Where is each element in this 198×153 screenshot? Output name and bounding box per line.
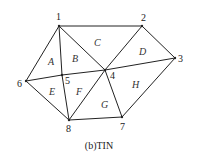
vertex-7	[121, 116, 123, 118]
diagram-caption: (b)TIN	[85, 140, 113, 152]
vertex-label-2: 2	[141, 12, 146, 23]
tin-diagram: 12345678 ABCDEFGH (b)TIN	[0, 0, 198, 153]
edge-4-8	[69, 70, 105, 120]
region-label-b: B	[72, 53, 78, 64]
vertex-label-4: 4	[110, 70, 115, 81]
edge-2-4	[105, 26, 142, 70]
vertex-3	[174, 57, 176, 59]
vertex-5	[61, 74, 63, 76]
edge-1-5	[59, 26, 62, 75]
edge-6-1	[26, 26, 59, 81]
vertex-label-6: 6	[17, 78, 22, 89]
vertex-label-1: 1	[56, 11, 61, 22]
edge-8-6	[26, 81, 69, 120]
vertex-8	[68, 119, 70, 121]
vertex-4	[104, 69, 106, 71]
vertex-labels-group: 12345678	[17, 11, 183, 134]
region-label-h: H	[131, 79, 140, 90]
vertex-label-8: 8	[66, 123, 71, 134]
edge-2-3	[142, 26, 175, 58]
vertex-label-7: 7	[120, 121, 125, 132]
edge-3-4	[105, 58, 175, 70]
region-label-a: A	[47, 56, 55, 67]
vertex-label-3: 3	[178, 53, 183, 64]
vertex-6	[25, 80, 27, 82]
vertex-label-5: 5	[65, 75, 70, 86]
vertex-1	[58, 25, 60, 27]
region-label-g: G	[101, 99, 108, 110]
edge-1-4	[59, 26, 105, 70]
edge-3-7	[122, 58, 175, 117]
region-label-d: D	[138, 46, 147, 57]
region-label-f: F	[75, 86, 83, 97]
edge-6-5	[26, 75, 62, 81]
edge-7-8	[69, 117, 122, 120]
vertex-2	[141, 25, 143, 27]
region-label-c: C	[94, 37, 101, 48]
region-label-e: E	[48, 86, 55, 97]
